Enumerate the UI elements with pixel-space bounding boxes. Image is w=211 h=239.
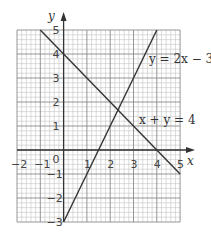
- y-tick-label: −2: [47, 192, 63, 205]
- coordinate-graph: −2−101234554321−1−2−3 x y y = 2x − 3 x +…: [0, 0, 211, 239]
- x-tick-label: 0: [53, 153, 60, 166]
- y-tick-label: 2: [53, 96, 60, 109]
- y-axis-arrow-icon: [61, 12, 67, 21]
- x-tick-label: 1: [84, 158, 91, 171]
- x-tick-label: 3: [131, 158, 138, 171]
- y-tick-label: −1: [47, 168, 63, 181]
- y-axis-label: y: [47, 9, 55, 23]
- x-axis-label: x: [187, 154, 194, 168]
- x-tick-label: −2: [11, 158, 27, 171]
- y-tick-label: 4: [53, 48, 60, 61]
- y-tick-label: 3: [53, 72, 60, 85]
- line-label-y-equals-2x-minus-3: y = 2x − 3: [148, 52, 211, 66]
- x-tick-label: 4: [154, 158, 161, 171]
- x-tick-label: 2: [107, 158, 114, 171]
- y-tick-label: 1: [53, 120, 60, 133]
- y-tick-label: −3: [47, 216, 63, 229]
- x-tick-label: 5: [177, 158, 184, 171]
- x-axis-arrow-icon: [186, 147, 195, 153]
- y-tick-label: 5: [53, 24, 60, 37]
- line-label-x-plus-y-equals-4: x + y = 4: [139, 113, 196, 127]
